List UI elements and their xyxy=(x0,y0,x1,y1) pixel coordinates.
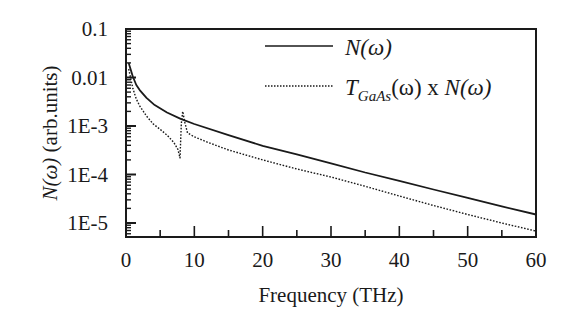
legend: N(ω) TGaAs(ω) x N(ω) xyxy=(265,35,492,104)
y-axis-tick-labels: 0.10.011E-31E-41E-5 xyxy=(67,17,108,235)
y-tick-label: 0.1 xyxy=(82,17,108,41)
y-axis-title-units: (arb.units) xyxy=(38,66,62,158)
x-axis-ticks xyxy=(126,226,536,237)
x-tick-label: 10 xyxy=(184,248,205,272)
plot-border xyxy=(126,29,536,237)
y-axis-title-symbol: N(ω) xyxy=(38,158,62,202)
x-tick-label: 40 xyxy=(389,248,410,272)
legend-label-n-omega: N(ω) xyxy=(344,35,392,60)
legend-n-omega: N(ω) xyxy=(444,75,492,100)
x-axis-title: Frequency (THz) xyxy=(258,283,403,307)
y-tick-label: 1E-4 xyxy=(67,163,108,187)
x-tick-label: 0 xyxy=(121,248,132,272)
legend-omega-times: (ω) x xyxy=(391,75,444,100)
legend-subscript-gaas: GaAs xyxy=(358,88,391,104)
y-tick-label: 0.01 xyxy=(71,66,108,90)
x-axis-tick-labels: 0102030405060 xyxy=(121,248,547,272)
plot-frame xyxy=(126,29,536,237)
y-tick-label: 1E-3 xyxy=(67,114,108,138)
x-tick-label: 20 xyxy=(252,248,273,272)
y-tick-label: 1E-5 xyxy=(67,211,108,235)
x-tick-label: 60 xyxy=(526,248,547,272)
legend-label-t-gaas-times-n: TGaAs(ω) x N(ω) xyxy=(345,75,492,104)
chart: 0.10.011E-31E-41E-5 0102030405060 Freque… xyxy=(0,0,569,330)
x-tick-label: 30 xyxy=(321,248,342,272)
y-axis-ticks xyxy=(126,29,136,234)
y-axis-title: N(ω) (arb.units) xyxy=(38,66,62,202)
x-tick-label: 50 xyxy=(457,248,478,272)
